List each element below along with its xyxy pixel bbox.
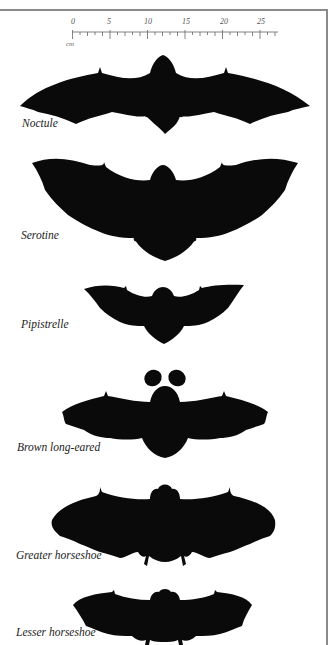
bat-label-pipistrelle: Pipistrelle bbox=[21, 318, 68, 330]
bat-label-serotine: Serotine bbox=[21, 229, 59, 241]
bat-label-greater-horseshoe: Greater horseshoe bbox=[16, 549, 102, 561]
bat-label-noctule: Noctule bbox=[22, 117, 58, 129]
serotine-silhouette-icon bbox=[32, 159, 298, 261]
noctule-silhouette-icon bbox=[20, 55, 310, 134]
bat-label-brown-long-eared: Brown long-eared bbox=[17, 441, 100, 453]
bat-label-lesser-horseshoe: Lesser horseshoe bbox=[16, 626, 96, 638]
lesser-horseshoe-silhouette-icon bbox=[73, 589, 252, 645]
pipistrelle-silhouette-icon bbox=[84, 285, 244, 344]
